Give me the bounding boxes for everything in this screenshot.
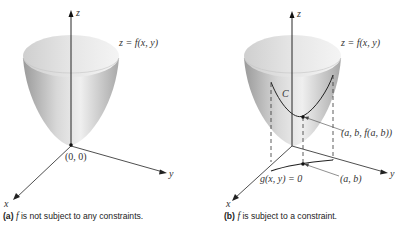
paraboloid-rim [244,35,341,77]
x-axis [235,146,292,198]
point-3d-label: (a, b, f(a, b)) [341,127,393,139]
y-axis-arrow-icon [380,170,388,175]
panel-b: z z = f(x, y) C (a, b, f(a, b)) (a, b) g… [225,8,395,209]
z-axis-label: z [296,8,301,19]
leader-line [307,165,339,176]
caption-b-text: is subject to a constraint. [240,211,337,221]
caption-a: (a) f is not subject to any constraints. [3,211,143,221]
point-2d-label: (a, b) [340,173,362,185]
caption-b-tag: (b) [224,211,235,221]
z-axis-arrow-icon [290,11,295,18]
constraint-label: g(x, y) = 0 [260,173,302,185]
z-axis-label: z [75,7,80,18]
y-axis-label: y [389,168,395,179]
y-axis-arrow-icon [159,170,167,175]
caption-a-text: is not subject to any constraints. [19,211,144,221]
y-axis-label: y [168,168,174,179]
y-axis [292,146,384,172]
curve-c-label: C [282,88,289,99]
surface-label: z = f(x, y) [118,37,159,49]
leader-arrow-icon [304,164,309,168]
x-axis [16,146,71,198]
caption-a-tag: (a) [3,211,14,221]
origin-point [69,143,73,147]
x-axis-label: x [3,198,9,209]
x-axis-label: x [225,198,231,209]
panel-a: z z = f(x, y) (0, 0) x y [3,7,174,209]
x-axis-arrow-icon [13,193,20,200]
z-axis-arrow-icon [69,10,74,17]
caption-b: (b) f is subject to a constraint. [224,211,337,221]
constraint-curve [271,160,333,171]
figure: z z = f(x, y) (0, 0) x y [0,0,403,233]
origin-label: (0, 0) [65,151,87,163]
surface-label: z = f(x, y) [340,37,381,49]
